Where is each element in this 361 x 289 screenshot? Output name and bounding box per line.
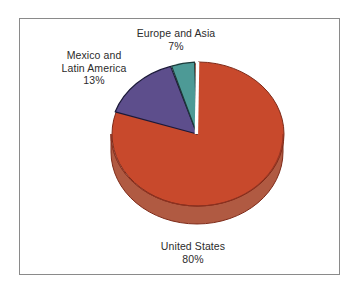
pie-slice-separation-gap <box>196 62 197 134</box>
slice-label-united-states: United States 80% <box>123 240 263 265</box>
slice-label-united-states-name: United States <box>123 240 263 253</box>
chart-canvas: Europe and Asia 7% Mexico and Latin Amer… <box>0 0 361 289</box>
slice-label-europe-asia-name: Europe and Asia <box>116 27 236 40</box>
slice-label-mexico-latin-america: Mexico and Latin America 13% <box>43 49 145 87</box>
slice-label-mexico-line1: Mexico and <box>43 49 145 62</box>
slice-label-mexico-line2: Latin America <box>43 62 145 75</box>
slice-label-mexico-value: 13% <box>43 74 145 87</box>
slice-label-united-states-value: 80% <box>123 253 263 266</box>
